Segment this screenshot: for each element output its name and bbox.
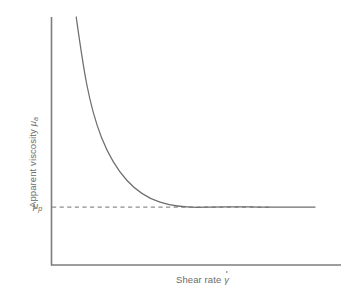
y-axis-label-mu: μ <box>27 121 38 126</box>
x-axis-label-text: Shear rate <box>176 274 221 285</box>
y-axis-label-subscript: a <box>31 117 40 121</box>
y-tick-label-mu-p: μp <box>33 200 42 213</box>
x-axis-label: Shear rate γ <box>176 274 229 285</box>
y-axis-label-text: Apparent viscosity <box>27 129 38 208</box>
gamma-dot-symbol: γ <box>224 274 229 285</box>
mu-p-subscript: p <box>38 204 42 213</box>
y-axis-label: Apparent viscosity μa <box>27 117 40 208</box>
plot-background <box>0 0 355 299</box>
chart-canvas <box>0 0 355 299</box>
chart-figure: Apparent viscosity μa μp Shear rate γ <box>0 0 355 299</box>
